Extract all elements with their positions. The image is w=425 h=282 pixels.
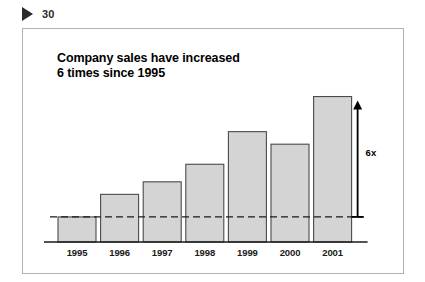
slide-frame: Company sales have increased 6 times sin… — [22, 28, 404, 274]
growth-label: 6x — [366, 147, 377, 158]
bar-1995 — [58, 217, 96, 242]
chart-canvas — [23, 29, 405, 275]
bar-1997 — [143, 182, 181, 242]
slide-header: 30 — [22, 5, 55, 23]
x-tick-label-1997: 1997 — [141, 247, 184, 258]
x-tick-label-2000: 2000 — [269, 247, 312, 258]
bar-1998 — [186, 164, 224, 242]
bar-2001 — [314, 97, 352, 242]
bar-1996 — [101, 194, 139, 242]
x-tick-label-1999: 1999 — [226, 247, 269, 258]
bars-group — [58, 97, 352, 242]
slide-number: 30 — [42, 8, 55, 20]
bar-2000 — [271, 144, 309, 242]
up-arrow-icon — [352, 101, 364, 217]
play-triangle-icon — [22, 7, 33, 21]
x-tick-label-1998: 1998 — [183, 247, 226, 258]
bar-chart — [23, 29, 405, 275]
x-tick-label-1995: 1995 — [56, 247, 99, 258]
x-tick-label-1996: 1996 — [98, 247, 141, 258]
x-tick-label-2001: 2001 — [311, 247, 354, 258]
bar-1999 — [228, 132, 266, 242]
x-axis-labels: 1995199619971998199920002001 — [23, 247, 405, 267]
